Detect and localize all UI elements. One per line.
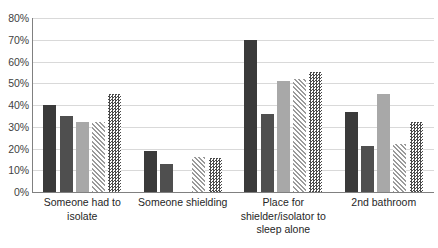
plot-area	[32, 18, 434, 192]
bar	[108, 94, 121, 192]
bar	[43, 105, 56, 192]
x-axis-category-labels: Someone had toisolateSomeone shieldingPl…	[32, 196, 434, 248]
x-label-line: shielder/isolator to	[241, 210, 326, 222]
bar	[277, 81, 290, 192]
bar	[244, 40, 257, 192]
bar	[293, 79, 306, 192]
bar-group	[244, 18, 322, 192]
bar	[261, 114, 274, 192]
bar	[309, 72, 322, 192]
bar	[345, 112, 358, 192]
bar	[410, 122, 423, 192]
bar	[361, 146, 374, 192]
y-axis-tick-label: 30%	[0, 122, 29, 132]
bar-chart: 80%70%60%50%40%30%20%10%0% Someone had t…	[0, 0, 438, 248]
y-axis-tick-label: 80%	[0, 13, 29, 23]
bar	[393, 144, 406, 192]
x-axis-line	[32, 192, 434, 193]
x-label-line: 2nd bathroom	[351, 196, 416, 208]
y-axis-tick-label: 60%	[0, 57, 29, 67]
y-axis-tick-label: 40%	[0, 100, 29, 110]
bar	[76, 122, 89, 192]
x-label-line: isolate	[67, 210, 97, 222]
bar	[209, 158, 222, 192]
bar	[92, 122, 105, 192]
y-axis-tick-label: 50%	[0, 78, 29, 88]
bar	[377, 94, 390, 192]
y-axis-tick-labels: 80%70%60%50%40%30%20%10%0%	[0, 18, 29, 193]
y-axis-tick-label: 10%	[0, 165, 29, 175]
y-axis-tick-label: 20%	[0, 144, 29, 154]
y-axis-tick-label: 70%	[0, 35, 29, 45]
y-axis-line	[32, 18, 33, 193]
x-axis-category-label: 2nd bathroom	[325, 196, 438, 210]
x-label-line: Someone had to	[44, 196, 121, 208]
bar	[192, 157, 205, 192]
bar-group	[43, 18, 121, 192]
bar	[60, 116, 73, 192]
bar	[160, 164, 173, 192]
x-label-line: Someone shielding	[138, 196, 227, 208]
bar	[144, 151, 157, 192]
bar-group	[144, 18, 222, 192]
x-label-line: Place for	[263, 196, 304, 208]
x-label-line: sleep alone	[256, 223, 310, 235]
bar-group	[345, 18, 423, 192]
